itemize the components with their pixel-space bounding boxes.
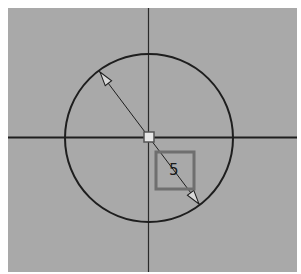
dimension-value-label[interactable]: 5 xyxy=(169,163,179,178)
center-point-marker[interactable] xyxy=(144,132,154,142)
arrowhead-top-icon xyxy=(97,70,112,86)
sketch-drawing xyxy=(0,0,301,274)
